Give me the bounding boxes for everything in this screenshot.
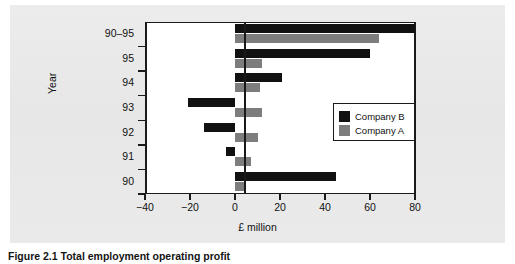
x-axis-tick-label: 0 — [232, 201, 238, 213]
y-axis-tick-label: 90 — [80, 175, 134, 187]
y-axis-tick-label: 95 — [80, 52, 134, 64]
x-axis-tick — [369, 194, 370, 200]
y-axis-tick-label: 94 — [80, 76, 134, 88]
figure-caption: Figure 2.1 Total employment operating pr… — [8, 250, 508, 262]
y-axis-tick — [138, 169, 145, 170]
figure-root: 90–95959493929190 −40−20020406080 £ mill… — [0, 0, 515, 264]
bar-company-a — [235, 34, 379, 43]
bar-company-a — [235, 83, 260, 92]
y-axis-tick-label: 92 — [80, 126, 134, 138]
zero-baseline — [244, 22, 246, 194]
bar-company-b — [235, 73, 282, 82]
bar-company-b — [226, 147, 235, 156]
x-axis-title: £ million — [0, 221, 515, 233]
legend-label-company-b: Company B — [355, 111, 405, 122]
legend-entry-company-a: Company A — [339, 124, 404, 137]
x-axis-tick-label: 40 — [319, 201, 331, 213]
y-axis-spine — [145, 22, 147, 194]
y-axis-tick-label: 93 — [80, 101, 134, 113]
y-axis-tick-label: 91 — [80, 150, 134, 162]
y-axis-tick — [138, 144, 145, 145]
y-axis-title: Year — [46, 73, 58, 94]
y-axis-tick — [138, 95, 145, 96]
y-axis-tick-labels: 90–95959493929190 — [80, 22, 134, 194]
x-axis-tick-label: −40 — [136, 201, 154, 213]
x-axis-tick — [234, 194, 235, 200]
x-axis-tick — [324, 194, 325, 200]
bar-company-a — [235, 108, 262, 117]
legend-entry-company-b: Company B — [339, 110, 405, 123]
x-axis-tick — [189, 194, 190, 200]
y-axis-tick — [138, 46, 145, 47]
legend-label-company-a: Company A — [355, 125, 404, 136]
bar-company-b — [204, 123, 236, 132]
x-axis-tick-label: 60 — [364, 201, 376, 213]
y-axis-tick-label: 90–95 — [80, 27, 134, 39]
legend-swatch-icon-company-a — [339, 125, 350, 136]
x-axis-tick-label: 20 — [274, 201, 286, 213]
y-axis-tick — [138, 120, 145, 121]
bar-company-b — [235, 24, 415, 33]
x-axis-tick — [144, 194, 145, 200]
bar-company-b — [188, 98, 235, 107]
y-axis-tick — [138, 70, 145, 71]
bar-company-b — [235, 172, 336, 181]
legend-swatch-icon-company-b — [339, 111, 350, 122]
bar-company-a — [235, 157, 251, 166]
x-axis-tick — [414, 194, 415, 200]
x-axis-tick — [279, 194, 280, 200]
bar-company-a — [235, 133, 258, 142]
chart-legend: Company B Company A — [333, 103, 415, 141]
x-axis-tick-label: −20 — [181, 201, 199, 213]
bar-company-a — [235, 59, 262, 68]
bar-company-b — [235, 49, 370, 58]
x-axis-tick-label: 80 — [409, 201, 421, 213]
